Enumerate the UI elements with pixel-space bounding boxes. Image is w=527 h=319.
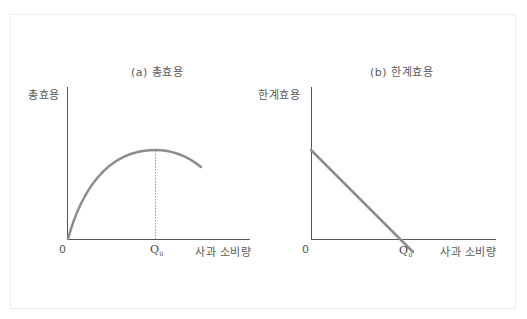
q-subscript: 0 — [160, 250, 164, 257]
charts-svg — [0, 0, 527, 319]
panel-a-origin-label: 0 — [59, 243, 67, 256]
panel-b-q0-label: Q0 — [399, 244, 413, 258]
q-subscript: 0 — [409, 251, 413, 258]
panel-a-plot — [67, 87, 250, 240]
q-letter: Q — [150, 243, 160, 256]
panel-b-origin-label: 0 — [302, 243, 310, 256]
panel-a-x-label: 사과 소비량 — [195, 243, 252, 259]
panel-a-title: (a) 총효용 — [131, 63, 183, 79]
panel-b-title: (b) 한계효용 — [370, 63, 433, 79]
q-letter: Q — [399, 244, 409, 257]
panel-b-x-label: 사과 소비량 — [440, 243, 497, 259]
total-utility-curve — [68, 150, 201, 239]
marginal-utility-line — [311, 150, 413, 252]
panel-b-plot — [311, 87, 496, 252]
panel-a-y-label: 총효용 — [28, 86, 60, 102]
panel-b-y-label: 한계효용 — [258, 86, 300, 102]
panel-a-q0-label: Q0 — [150, 243, 164, 257]
